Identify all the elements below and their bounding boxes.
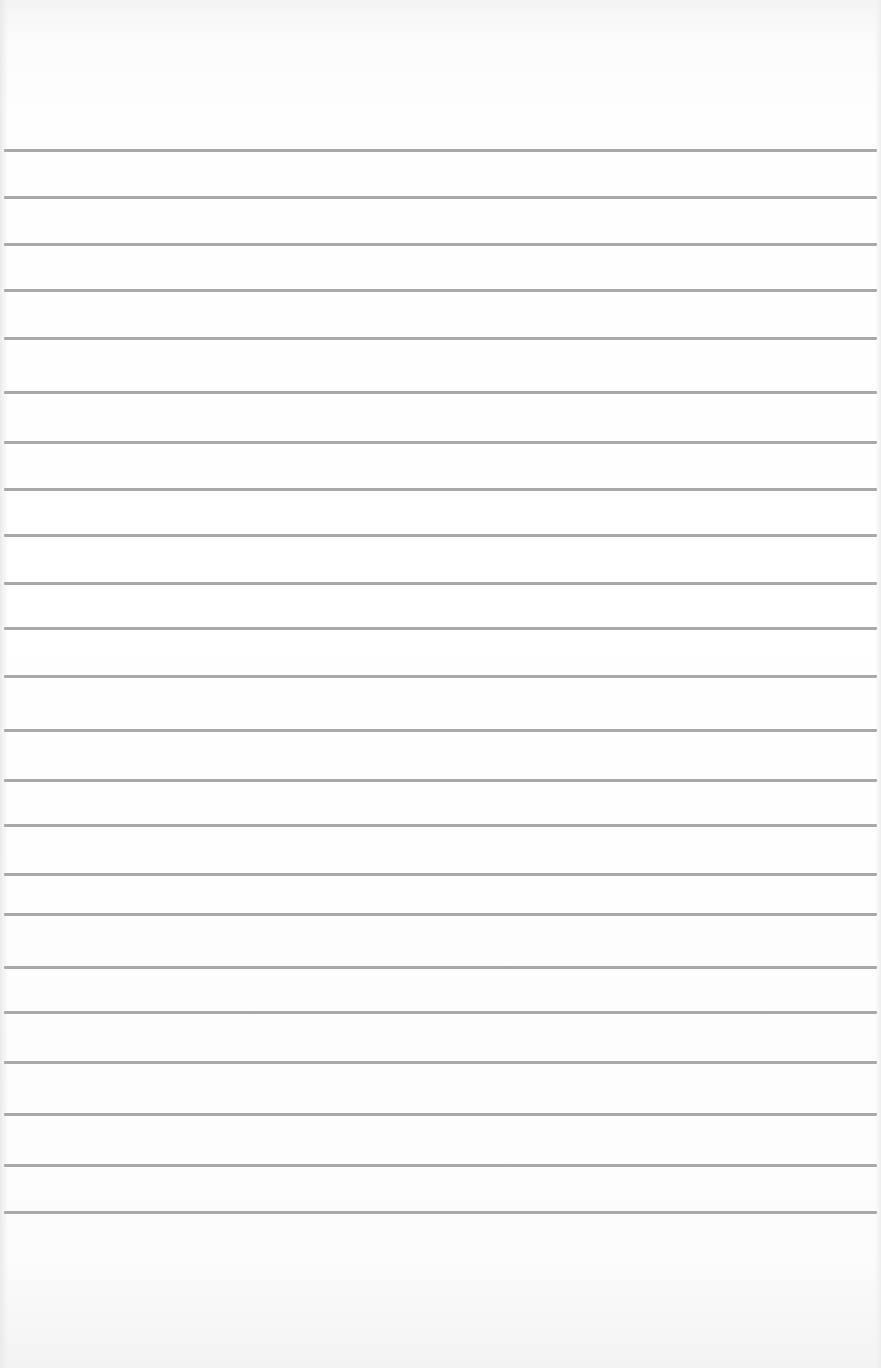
ruled-line xyxy=(4,243,877,246)
ruled-line xyxy=(4,289,877,292)
ruled-line xyxy=(4,337,877,340)
ruled-line xyxy=(4,966,877,969)
paper-right-edge-shadow xyxy=(875,0,881,1368)
ruled-line xyxy=(4,675,877,678)
ruled-line xyxy=(4,1113,877,1116)
ruled-line xyxy=(4,488,877,491)
ruled-line xyxy=(4,196,877,199)
lined-paper xyxy=(0,0,881,1368)
ruled-line xyxy=(4,1164,877,1167)
ruled-line xyxy=(4,1211,877,1214)
ruled-line xyxy=(4,913,877,916)
ruled-line xyxy=(4,149,877,152)
ruled-line xyxy=(4,873,877,876)
ruled-line xyxy=(4,534,877,537)
ruled-line xyxy=(4,391,877,394)
ruled-line xyxy=(4,1011,877,1014)
ruled-line xyxy=(4,729,877,732)
ruled-line xyxy=(4,779,877,782)
ruled-line xyxy=(4,1061,877,1064)
ruled-line xyxy=(4,582,877,585)
ruled-line xyxy=(4,627,877,630)
ruled-line xyxy=(4,441,877,444)
paper-left-edge-shadow xyxy=(0,0,8,1368)
ruled-line xyxy=(4,824,877,827)
